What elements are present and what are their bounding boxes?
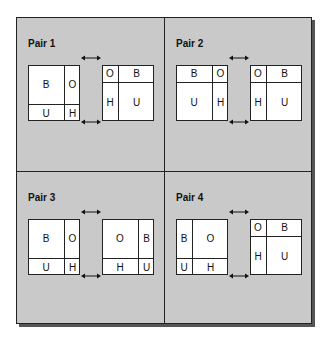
cell-b: B (28, 219, 64, 258)
panel-pair-1: Pair 1 BOUHOBHU (17, 18, 164, 171)
double-arrow-bottom-icon (81, 119, 101, 125)
double-arrow-top-icon (229, 209, 249, 215)
cell-b: B (266, 65, 302, 82)
cell-h: H (250, 236, 266, 275)
cell-u: U (118, 82, 154, 121)
double-arrow-bottom-icon (81, 273, 101, 279)
cell-h: H (102, 82, 118, 121)
double-arrow-bottom-icon (229, 273, 249, 279)
left-configuration-box: BOUH (176, 65, 228, 121)
pair-label: Pair 2 (176, 38, 203, 49)
cell-o: O (102, 65, 118, 82)
cell-b: B (266, 219, 302, 236)
left-configuration-box: BOUH (28, 65, 80, 121)
cell-o: O (212, 65, 228, 82)
panel-pair-3: Pair 3 BOUHOBHU (17, 172, 164, 325)
cell-b: B (118, 65, 154, 82)
pair-label: Pair 1 (28, 38, 55, 49)
cell-o: O (192, 219, 228, 258)
pair-label: Pair 3 (28, 192, 55, 203)
cell-b: B (28, 65, 64, 104)
cell-o: O (64, 65, 80, 104)
left-configuration-box: BOUH (28, 219, 80, 275)
cell-u: U (266, 236, 302, 275)
cell-u: U (28, 104, 64, 121)
right-configuration-box: OBHU (250, 219, 302, 275)
right-configuration-box: OBHU (250, 65, 302, 121)
cell-b: B (176, 65, 212, 82)
right-configuration-box: OBHU (102, 219, 154, 275)
cell-u: U (28, 258, 64, 275)
cell-o: O (250, 219, 266, 236)
cell-b: B (138, 219, 154, 258)
left-configuration-box: BOUH (176, 219, 228, 275)
double-arrow-bottom-icon (229, 119, 249, 125)
cell-o: O (250, 65, 266, 82)
cell-h: H (250, 82, 266, 121)
cell-h: H (64, 258, 80, 275)
cell-h: H (64, 104, 80, 121)
cell-h: H (212, 82, 228, 121)
pair-label: Pair 4 (176, 192, 203, 203)
double-arrow-top-icon (81, 209, 101, 215)
cell-u: U (138, 258, 154, 275)
panel-pair-4: Pair 4 BOUHOBHU (165, 172, 312, 325)
cell-h: H (192, 258, 228, 275)
double-arrow-top-icon (229, 55, 249, 61)
diagram-frame: Pair 1 BOUHOBHU Pair 2 BOUHOBHU Pair 3 B… (16, 17, 312, 324)
cell-b: B (176, 219, 192, 258)
double-arrow-top-icon (81, 55, 101, 61)
panel-pair-2: Pair 2 BOUHOBHU (165, 18, 312, 171)
cell-h: H (102, 258, 138, 275)
cell-u: U (176, 258, 192, 275)
cell-o: O (102, 219, 138, 258)
cell-u: U (266, 82, 302, 121)
cell-u: U (176, 82, 212, 121)
cell-o: O (64, 219, 80, 258)
right-configuration-box: OBHU (102, 65, 154, 121)
